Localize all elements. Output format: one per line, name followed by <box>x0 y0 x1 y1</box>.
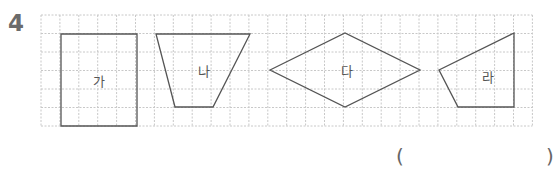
answer-close-paren: ) <box>546 144 554 168</box>
answer-open-paren: ( <box>396 144 404 168</box>
shape-label: 다 <box>341 64 353 79</box>
shape-label: 가 <box>93 74 105 89</box>
shapes: 가나다라 <box>61 33 514 126</box>
shape-label: 나 <box>198 64 210 79</box>
answer-blank[interactable] <box>412 146 542 170</box>
grid-lines <box>41 15 532 126</box>
shape-label: 라 <box>482 70 494 85</box>
